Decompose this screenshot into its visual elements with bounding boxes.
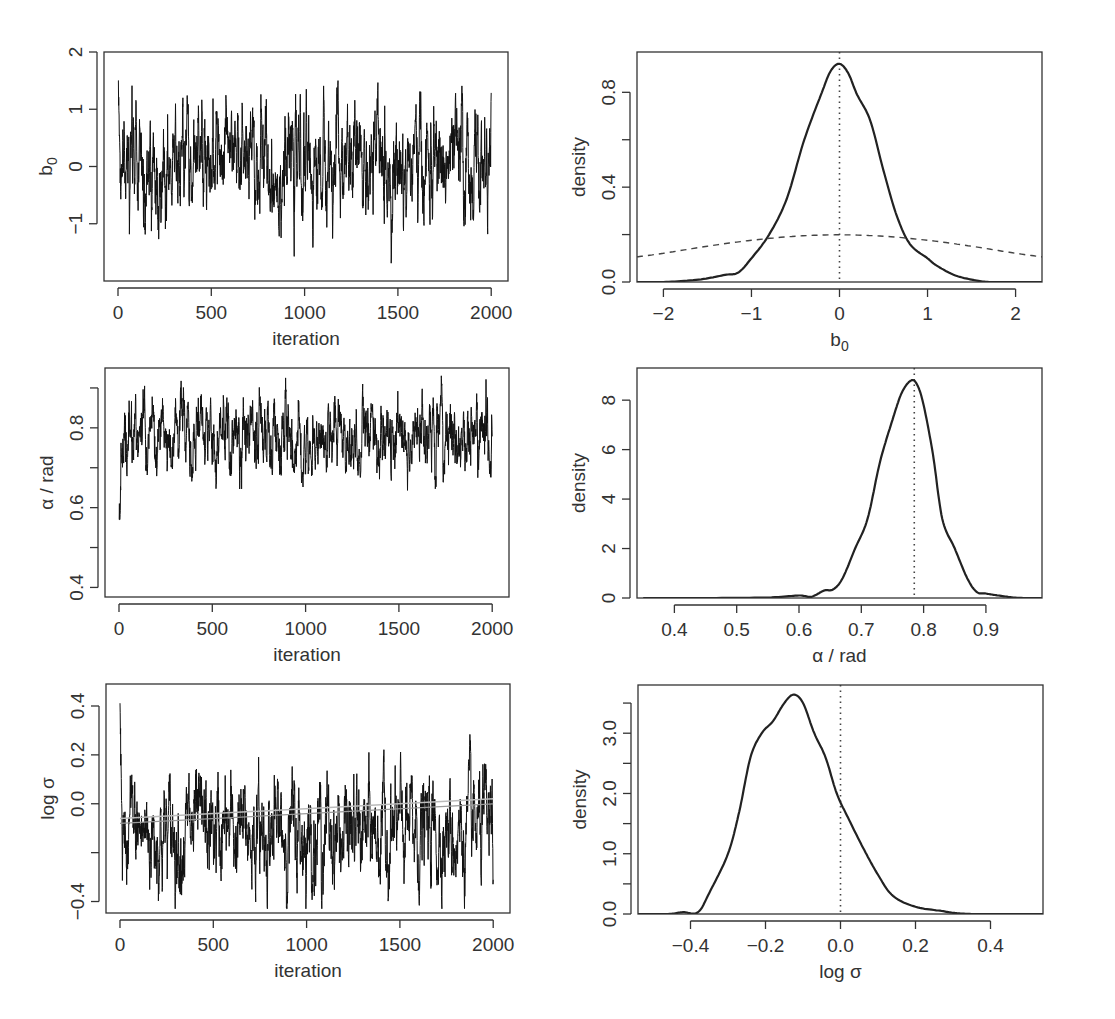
y-tick-label: 0 xyxy=(65,161,86,172)
x-tick-label: −2 xyxy=(653,303,675,324)
y-axis-label: density xyxy=(569,769,590,830)
y-tick-label: 0.4 xyxy=(598,174,619,201)
x-axis: −0.4−0.20.00.20.4 xyxy=(672,921,1004,956)
y-tick-label: −0.4 xyxy=(67,882,88,920)
y-tick-label: 1 xyxy=(65,104,86,115)
x-tick-label: 2000 xyxy=(470,302,512,323)
x-tick-label: 1000 xyxy=(283,302,325,323)
y-axis-label: α / rad xyxy=(36,455,57,509)
x-axis: 0500100015002000 xyxy=(113,288,513,323)
x-tick-label: 0.8 xyxy=(910,619,936,640)
x-axis-label: iteration xyxy=(273,644,341,665)
x-tick-label: 1 xyxy=(922,303,933,324)
panel-density_b0: −2−10120.00.40.8b0density xyxy=(568,52,1042,354)
y-tick-label: −1 xyxy=(65,213,86,235)
x-tick-label: 0.4 xyxy=(661,619,688,640)
y-tick-label: 2 xyxy=(598,543,619,554)
x-tick-label: 0.9 xyxy=(973,619,999,640)
plot-area xyxy=(643,368,1042,598)
x-tick-label: 0.2 xyxy=(902,935,928,956)
panel-density_alpha: 0.40.50.60.70.80.902468α / raddensity xyxy=(568,368,1042,666)
x-tick-label: 2 xyxy=(1010,303,1021,324)
x-tick-label: 0 xyxy=(113,302,124,323)
y-tick-label: 0.0 xyxy=(599,901,620,927)
x-tick-label: 2000 xyxy=(471,618,513,639)
y-axis: 0.01.02.03.0 xyxy=(599,703,631,927)
x-tick-label: 500 xyxy=(197,934,229,955)
y-tick-label: 2.0 xyxy=(599,780,620,806)
x-tick-label: 0 xyxy=(115,934,126,955)
y-tick-label: 0.8 xyxy=(598,79,619,105)
x-tick-label: 1000 xyxy=(284,618,326,639)
x-tick-label: 1500 xyxy=(377,302,419,323)
posterior-density-curve xyxy=(643,380,1042,598)
y-tick-label: 8 xyxy=(598,395,619,406)
y-tick-label: 0.4 xyxy=(67,692,88,719)
x-tick-label: −0.2 xyxy=(747,935,785,956)
x-tick-label: 1000 xyxy=(285,934,327,955)
x-tick-label: −0.4 xyxy=(672,935,710,956)
x-tick-label: 500 xyxy=(195,302,227,323)
plot-area xyxy=(120,703,493,909)
plot-frame xyxy=(105,368,509,597)
trace-line xyxy=(118,81,491,264)
x-axis: 0.40.50.60.70.80.9 xyxy=(661,605,999,640)
x-axis: 0500100015002000 xyxy=(114,604,514,639)
x-tick-label: −1 xyxy=(741,303,763,324)
y-tick-label: 1.0 xyxy=(599,841,620,867)
x-tick-label: 0.6 xyxy=(786,619,812,640)
y-tick-label: 0.0 xyxy=(598,269,619,295)
x-axis-label: α / rad xyxy=(812,645,866,666)
x-tick-label: 0.7 xyxy=(848,619,874,640)
x-tick-label: 0 xyxy=(834,303,845,324)
x-axis-label: log σ xyxy=(819,961,862,982)
plot-area xyxy=(637,52,1042,282)
running-band-line xyxy=(120,804,493,824)
panel-trace_alpha: 05001000150020000.40.60.8iterationα / ra… xyxy=(36,368,513,665)
y-tick-label: 0 xyxy=(598,593,619,604)
panel-trace_logsigma: 0500100015002000−0.40.00.20.4iterationlo… xyxy=(37,684,514,981)
y-tick-label: 3.0 xyxy=(599,720,620,746)
panel-density_logsigma: −0.4−0.20.00.20.40.01.02.03.0log σdensit… xyxy=(569,685,1043,982)
y-axis-label: density xyxy=(568,452,589,513)
x-tick-label: 1500 xyxy=(379,934,421,955)
y-tick-label: 0.0 xyxy=(67,791,88,817)
plot-area xyxy=(638,685,1043,914)
x-axis: −2−1012 xyxy=(653,289,1021,324)
mcmc-diagnostics-figure: 0500100015002000−1012iterationb0−2−10120… xyxy=(0,0,1115,1019)
x-tick-label: 1500 xyxy=(378,618,420,639)
x-axis-label: b0 xyxy=(830,329,849,354)
y-tick-label: 6 xyxy=(598,444,619,455)
trace-line xyxy=(120,703,493,909)
x-tick-label: 0 xyxy=(114,618,125,639)
y-axis: 0.00.40.8 xyxy=(598,79,630,295)
x-axis-label: iteration xyxy=(274,960,342,981)
x-tick-label: 0.5 xyxy=(723,619,749,640)
y-tick-label: 0.2 xyxy=(67,742,88,768)
running-mean-line xyxy=(120,799,493,819)
x-tick-label: 2000 xyxy=(472,934,514,955)
y-axis: 02468 xyxy=(598,395,630,603)
plot-frame xyxy=(637,368,1042,598)
y-tick-label: 0.8 xyxy=(66,415,87,441)
trace-line xyxy=(119,376,492,520)
y-tick-label: 0.6 xyxy=(66,494,87,520)
x-axis: 0500100015002000 xyxy=(115,920,515,955)
y-tick-label: 4 xyxy=(598,493,619,504)
y-tick-label: 2 xyxy=(65,47,86,58)
y-axis: −0.40.00.20.4 xyxy=(67,692,99,920)
x-tick-label: 500 xyxy=(196,618,228,639)
x-axis-label: iteration xyxy=(272,328,340,349)
plot-area xyxy=(118,81,491,264)
x-tick-label: 0.0 xyxy=(827,935,853,956)
y-axis-label: density xyxy=(568,136,589,197)
y-axis-label: b0 xyxy=(35,157,60,176)
y-axis: 0.40.60.8 xyxy=(66,388,98,601)
y-axis: −1012 xyxy=(65,47,97,235)
x-tick-label: 0.4 xyxy=(977,935,1004,956)
plot-area xyxy=(119,376,492,520)
y-axis-label: log σ xyxy=(37,777,58,820)
posterior-density-curve xyxy=(638,695,1043,914)
y-tick-label: 0.4 xyxy=(66,574,87,601)
panel-trace_b0: 0500100015002000−1012iterationb0 xyxy=(35,47,512,349)
